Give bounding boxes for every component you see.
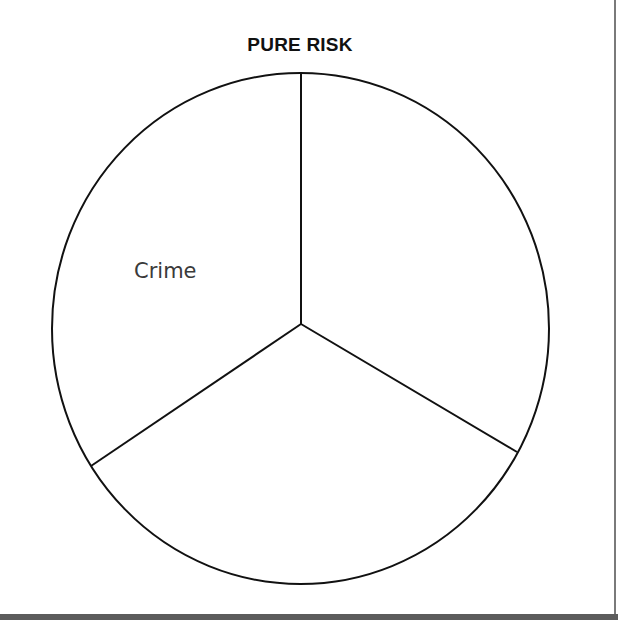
bottom-border bbox=[0, 614, 618, 620]
slice-label-crime: Crime bbox=[134, 259, 197, 283]
page: PURE RISK Crime bbox=[0, 0, 616, 614]
pie-diagram: Crime bbox=[0, 0, 614, 614]
